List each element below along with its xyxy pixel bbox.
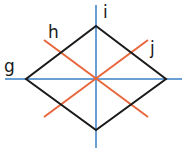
- label-j: j: [149, 38, 155, 58]
- symmetry-diagram: g h i j: [0, 0, 182, 148]
- label-h: h: [48, 22, 59, 42]
- label-i: i: [103, 2, 108, 22]
- label-g: g: [4, 56, 15, 76]
